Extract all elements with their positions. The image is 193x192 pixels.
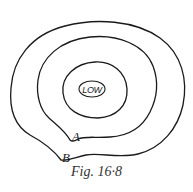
- point-label-a: A: [71, 129, 80, 144]
- contour-diagram: LOW A B Fig. 16·8: [0, 0, 193, 192]
- figure-caption: Fig. 16·8: [0, 164, 193, 180]
- point-label-b: B: [62, 150, 70, 165]
- low-label: LOW: [82, 85, 103, 95]
